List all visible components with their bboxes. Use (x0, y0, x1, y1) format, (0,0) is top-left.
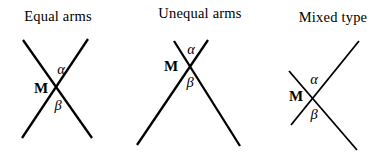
diagram-title-mixed-type: Mixed type (299, 9, 367, 26)
vertex-label-m-mixed-type: M (289, 89, 303, 104)
unequal-arms-line (137, 40, 208, 145)
angle-label-beta-mixed-type: β (310, 107, 317, 122)
mixed-type-line (289, 71, 357, 150)
vertex-label-m-unequal-arms: M (164, 59, 178, 74)
diagram-title-unequal-arms: Unequal arms (158, 5, 241, 22)
angle-label-alpha-mixed-type: α (310, 72, 318, 87)
unequal-arms-line (174, 41, 240, 146)
figure-canvas: Equal arms α M β Unequal arms α M β Mixe… (0, 0, 389, 160)
vertex-label-m-equal-arms: M (34, 81, 48, 96)
angle-label-alpha-unequal-arms: α (187, 42, 195, 57)
angle-label-beta-unequal-arms: β (186, 75, 193, 90)
angle-label-alpha-equal-arms: α (57, 62, 65, 77)
angle-label-beta-equal-arms: β (54, 98, 61, 113)
diagram-title-equal-arms: Equal arms (24, 8, 92, 25)
